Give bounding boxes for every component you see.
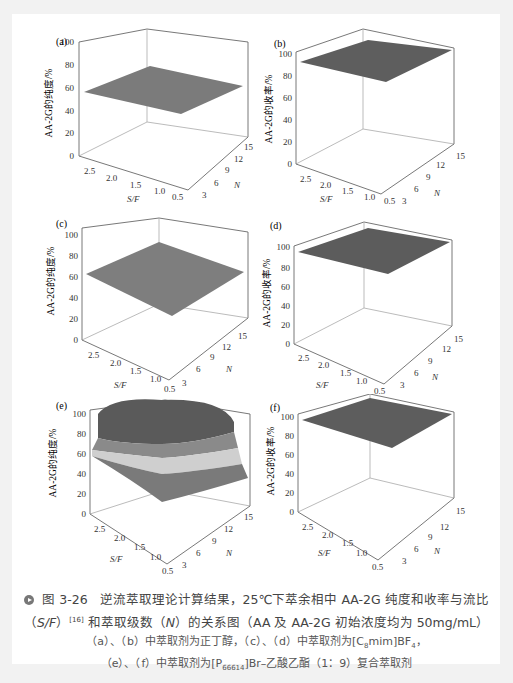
svg-text:80: 80 bbox=[77, 429, 87, 439]
surface-plot-d: 02040 6080100 2.52.01.5 1.00.5 369 1215 … bbox=[256, 204, 506, 394]
paren-open: （ bbox=[24, 615, 37, 630]
svg-text:2.5: 2.5 bbox=[88, 350, 100, 360]
panel-c: 02040 6080100 2.52.01.5 1.00.5 369 1215 … bbox=[12, 204, 262, 394]
svg-text:2.0: 2.0 bbox=[114, 533, 126, 543]
svg-text:9: 9 bbox=[428, 356, 433, 366]
svg-text:S/F: S/F bbox=[316, 380, 329, 390]
reference-marker: [16] bbox=[69, 616, 83, 624]
svg-text:3: 3 bbox=[202, 190, 207, 200]
z-axis-label: AA-2G的纯度/% bbox=[45, 423, 59, 503]
surface-a bbox=[84, 66, 243, 114]
z-axis-label: AA-2G的收率/% bbox=[259, 253, 273, 333]
svg-text:20: 20 bbox=[65, 128, 75, 138]
panel-label: (c) bbox=[56, 218, 67, 229]
svg-text:2.0: 2.0 bbox=[320, 180, 332, 190]
svg-text:S/F: S/F bbox=[114, 380, 127, 390]
caption-text-2a: 和萃取级数（ bbox=[84, 615, 166, 630]
svg-text:6: 6 bbox=[196, 548, 201, 558]
svg-text:0.5: 0.5 bbox=[374, 386, 386, 394]
panel-f: 02040 6080100 2.52.01.5 1.00.5 369 1215 … bbox=[256, 394, 506, 584]
svg-text:3: 3 bbox=[402, 196, 407, 204]
svg-text:60: 60 bbox=[77, 449, 87, 459]
svg-text:80: 80 bbox=[281, 263, 291, 273]
svg-text:12: 12 bbox=[222, 342, 231, 352]
svg-text:1.0: 1.0 bbox=[364, 192, 376, 202]
svg-text:0: 0 bbox=[286, 339, 291, 349]
svg-text:S/F: S/F bbox=[110, 554, 123, 564]
panel-e: 02040 6080100 2.52.01.5 1.00.5 369 1215 … bbox=[12, 394, 262, 584]
panel-b: 02040 6080100 2.52.01.5 1.00.5 369 1215 … bbox=[256, 14, 506, 204]
svg-text:40: 40 bbox=[69, 293, 79, 303]
svg-text:2.0: 2.0 bbox=[106, 173, 118, 183]
surface-c bbox=[86, 242, 244, 316]
z-axis-label: AA-2G的纯度/% bbox=[43, 241, 57, 321]
svg-text:0.5: 0.5 bbox=[384, 196, 396, 204]
svg-text:80: 80 bbox=[283, 71, 293, 81]
caption-line-4: （e）、（f）中萃取剂为[P66614]Br–乙酸乙酯（1：9）复合萃取剂 bbox=[0, 655, 513, 677]
svg-text:6: 6 bbox=[414, 184, 419, 194]
panel-label: (f) bbox=[270, 402, 280, 413]
panel-label: (b) bbox=[274, 38, 286, 49]
svg-text:40: 40 bbox=[281, 301, 291, 311]
svg-text:20: 20 bbox=[283, 137, 293, 147]
caption-text-3c: ， bbox=[416, 635, 427, 648]
svg-text:100: 100 bbox=[73, 409, 87, 419]
svg-text:6: 6 bbox=[196, 364, 201, 374]
caption-text-3b: mim]BF bbox=[369, 635, 412, 648]
svg-text:0: 0 bbox=[82, 509, 87, 519]
svg-text:N: N bbox=[225, 548, 233, 558]
caption-line-3: （a）、（b）中萃取剂为正丁醇，（c）、（d）中萃取剂为[C8mim]BF4， bbox=[0, 633, 513, 655]
svg-text:2.0: 2.0 bbox=[318, 360, 330, 370]
svg-text:6: 6 bbox=[214, 178, 219, 188]
svg-text:15: 15 bbox=[456, 151, 466, 161]
panel-label: (e) bbox=[56, 400, 67, 411]
svg-text:9: 9 bbox=[428, 532, 433, 542]
svg-text:12: 12 bbox=[442, 344, 451, 354]
svg-text:1.0: 1.0 bbox=[356, 376, 368, 386]
svg-text:9: 9 bbox=[210, 352, 215, 362]
svg-text:1.0: 1.0 bbox=[150, 374, 162, 384]
svg-text:15: 15 bbox=[244, 512, 254, 522]
svg-text:0: 0 bbox=[70, 151, 75, 161]
surface-f bbox=[302, 398, 452, 448]
figure-number: 图 3-26 bbox=[42, 592, 87, 607]
paren-close: ） bbox=[56, 615, 69, 630]
svg-text:2.5: 2.5 bbox=[84, 166, 96, 176]
caption-text-3a: （a）、（b）中萃取剂为正丁醇，（c）、（d）中萃取剂为[C bbox=[86, 635, 364, 648]
svg-text:0: 0 bbox=[74, 335, 79, 345]
svg-text:0: 0 bbox=[288, 159, 293, 169]
svg-text:40: 40 bbox=[77, 469, 87, 479]
svg-text:15: 15 bbox=[244, 142, 254, 152]
svg-text:15: 15 bbox=[456, 506, 466, 516]
caption-text-1: 逆流萃取理论计算结果，25℃下萃余相中 AA-2G 纯度和收率与流比 bbox=[100, 592, 489, 607]
svg-text:20: 20 bbox=[69, 314, 79, 324]
svg-text:1.0: 1.0 bbox=[154, 186, 166, 196]
surface-plot-b: 02040 6080100 2.52.01.5 1.00.5 369 1215 … bbox=[256, 14, 506, 204]
svg-text:N: N bbox=[433, 188, 441, 198]
svg-text:0.5: 0.5 bbox=[162, 566, 174, 576]
z-axis-label: AA-2G的纯度/% bbox=[41, 63, 55, 143]
svg-text:60: 60 bbox=[281, 282, 291, 292]
svg-text:0.5: 0.5 bbox=[172, 192, 184, 202]
panel-label: (a) bbox=[56, 36, 67, 47]
surface-b bbox=[300, 40, 452, 82]
svg-text:3: 3 bbox=[182, 378, 187, 388]
svg-text:80: 80 bbox=[69, 251, 79, 261]
svg-text:100: 100 bbox=[279, 49, 293, 59]
svg-text:S/F: S/F bbox=[320, 194, 333, 204]
svg-text:12: 12 bbox=[436, 160, 445, 170]
svg-text:2.5: 2.5 bbox=[298, 353, 310, 363]
svg-text:3: 3 bbox=[402, 556, 407, 566]
svg-text:6: 6 bbox=[414, 368, 419, 378]
svg-text:2.0: 2.0 bbox=[110, 358, 122, 368]
caption-text-4b: ]Br–乙酸乙酯（1：9）复合萃取剂 bbox=[245, 657, 413, 670]
svg-text:1.5: 1.5 bbox=[342, 186, 354, 196]
caption-line-1: 图 3-26 逆流萃取理论计算结果，25℃下萃余相中 AA-2G 纯度和收率与流… bbox=[0, 590, 513, 610]
svg-text:3: 3 bbox=[182, 560, 187, 570]
svg-text:2.0: 2.0 bbox=[322, 530, 334, 540]
svg-text:40: 40 bbox=[283, 115, 293, 125]
svg-text:N: N bbox=[433, 546, 441, 556]
svg-text:N: N bbox=[225, 364, 233, 374]
svg-text:1.5: 1.5 bbox=[340, 368, 352, 378]
surface-plot-f: 02040 6080100 2.52.01.5 1.00.5 369 1215 … bbox=[256, 394, 506, 584]
